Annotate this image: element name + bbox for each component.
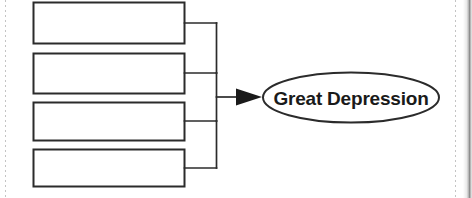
cause-box-4-rect[interactable] [34,150,185,187]
cause-box-1[interactable] [34,3,185,44]
page-gutter-shadow [463,0,472,198]
cause-box-2-rect[interactable] [34,54,185,94]
cause-effect-diagram: Great Depression [0,0,472,198]
arrow-head-icon [236,89,262,106]
scan-guide-right [455,0,456,198]
diagram-page: Great Depression [0,0,472,198]
cause-box-3[interactable] [34,103,185,141]
bracket-connector [185,23,239,168]
page-gutter-line [469,0,470,198]
cause-box-2[interactable] [34,54,185,94]
cause-box-1-rect[interactable] [34,3,185,44]
cause-box-3-rect[interactable] [34,103,185,141]
effect-ellipse-shape[interactable] [263,73,439,123]
cause-box-4[interactable] [34,150,185,187]
effect-ellipse[interactable]: Great Depression [263,73,439,123]
